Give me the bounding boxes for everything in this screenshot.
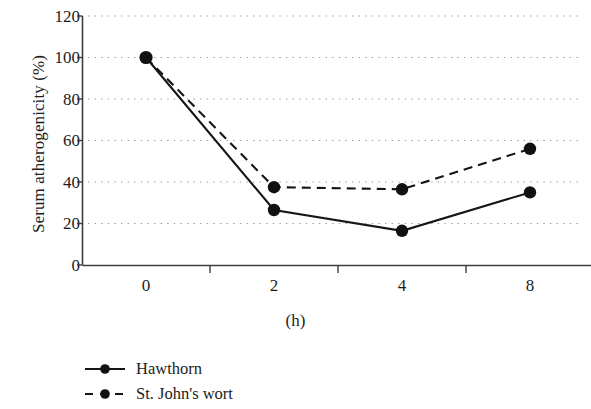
x-tick-label-4: 4: [382, 276, 422, 296]
y-axis-ticks: [77, 16, 83, 265]
series-line-st-johns-wort: [146, 58, 530, 190]
legend-item-st-johns-wort: St. John's wort: [85, 381, 233, 406]
x-axis-ticks: [210, 266, 466, 274]
data-point-sjw-2: [268, 181, 280, 193]
x-axis-title: (h): [0, 311, 591, 331]
x-tick-label-0: 0: [126, 276, 166, 296]
data-point-sjw-8: [524, 143, 536, 155]
data-point-haw-4: [396, 225, 408, 237]
x-tick-label-8: 8: [510, 276, 550, 296]
legend-label-st-johns-wort: St. John's wort: [136, 384, 233, 404]
legend-item-hawthorn: Hawthorn: [85, 356, 233, 381]
chart-figure: Serum atherogenicity (%) 120 100 80 60 4…: [0, 0, 591, 409]
series-line-hawthorn: [146, 58, 530, 231]
legend-key-dashed-line-icon: [85, 386, 125, 402]
gridlines: [88, 16, 580, 224]
legend-label-hawthorn: Hawthorn: [136, 359, 202, 379]
chart-legend: Hawthorn St. John's wort: [85, 356, 233, 406]
x-tick-label-2: 2: [254, 276, 294, 296]
plot-area: [0, 0, 591, 300]
data-point-sjw-4: [396, 183, 408, 195]
data-point-haw-2: [268, 204, 280, 216]
legend-key-solid-line-icon: [85, 361, 125, 377]
data-point-haw-8: [524, 186, 536, 198]
data-point-shared-0: [139, 51, 152, 64]
